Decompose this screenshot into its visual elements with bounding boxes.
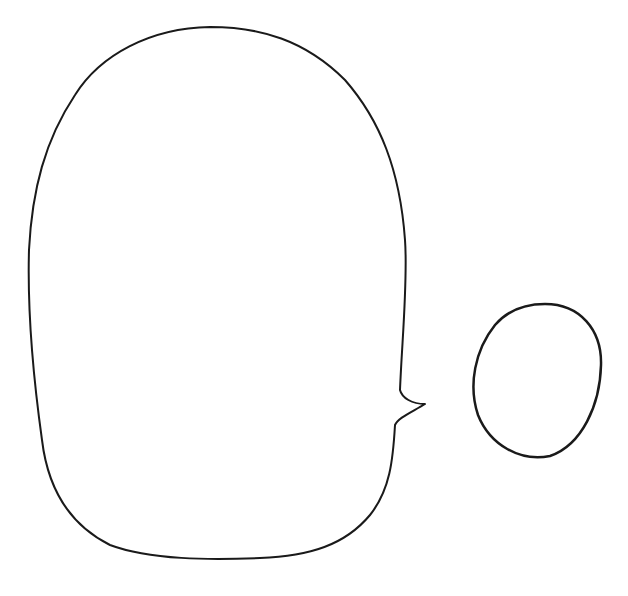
speech-bubble-outline — [29, 27, 425, 559]
small-oval-outline — [473, 304, 601, 457]
line-drawing — [0, 0, 628, 596]
drawing-canvas — [0, 0, 628, 596]
